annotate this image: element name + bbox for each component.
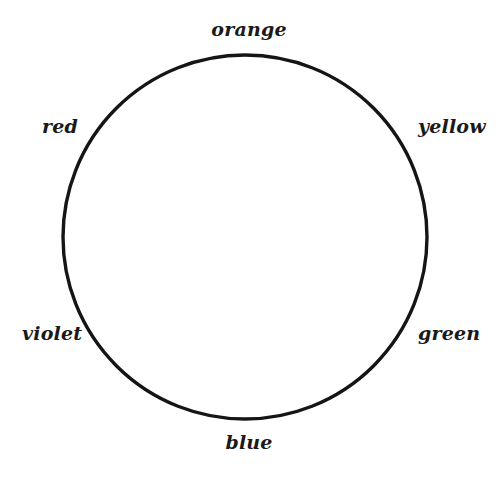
wheel-label-violet: violet xyxy=(22,324,82,343)
wheel-label-orange: orange xyxy=(211,20,286,39)
wheel-label-yellow: yellow xyxy=(418,117,486,136)
color-wheel-figure: orange yellow green blue violet red xyxy=(0,0,499,479)
wheel-label-red: red xyxy=(42,117,78,136)
wheel-outline-circle xyxy=(63,55,427,419)
wheel-label-blue: blue xyxy=(225,433,272,452)
wheel-label-green: green xyxy=(418,324,480,343)
color-wheel-graphic xyxy=(0,0,499,479)
